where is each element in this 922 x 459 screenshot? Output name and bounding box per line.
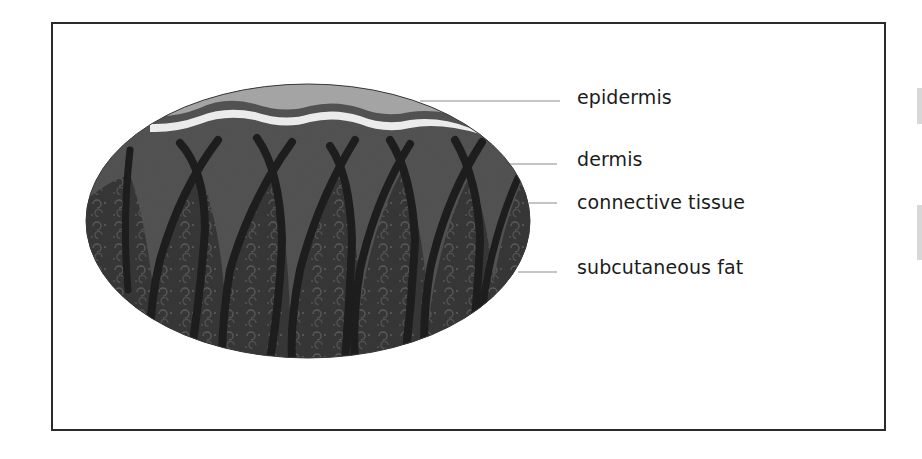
edge-artifact <box>917 88 922 124</box>
label-subcutaneous-fat: subcutaneous fat <box>577 256 743 278</box>
edge-artifact <box>917 205 922 260</box>
label-dermis: dermis <box>577 148 643 170</box>
label-connective-tissue: connective tissue <box>577 191 745 213</box>
label-epidermis: epidermis <box>577 86 672 108</box>
skin-cross-section-illustration <box>0 0 922 459</box>
skin-layers <box>80 80 540 370</box>
